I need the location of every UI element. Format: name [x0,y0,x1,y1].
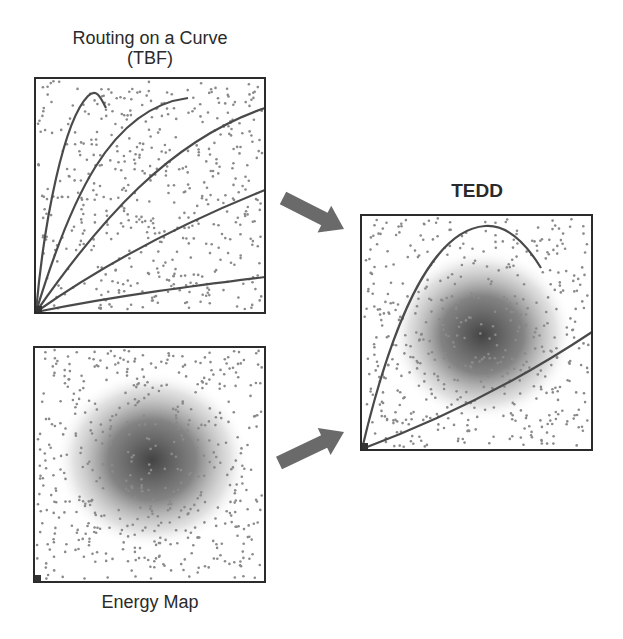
arrow-routing-to-tedd-icon [280,192,344,233]
energy-blob [55,371,249,549]
source-node [361,443,368,450]
panel-background [35,78,265,313]
tedd-panel [361,215,592,450]
arrow-energy-to-tedd-icon [276,428,344,469]
source-node [34,575,41,582]
diagram-canvas [0,0,623,639]
source-node [35,306,42,313]
arrows [276,192,344,470]
energy-panel [34,347,265,582]
routing-panel [35,78,265,313]
